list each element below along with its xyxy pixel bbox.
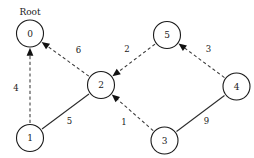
edge-weight-3-2: 1 [121, 117, 126, 127]
arrowhead-icon-2-to-0 [42, 42, 50, 49]
node-label-0: 0 [27, 29, 33, 39]
graph-node-0[interactable]: 0 [17, 20, 44, 47]
edge-2-to-0 [47, 46, 89, 77]
nodes-layer: 012345 [17, 20, 251, 154]
node-label-4: 4 [234, 82, 240, 92]
node-label-1: 1 [27, 133, 33, 143]
graph-node-5[interactable]: 5 [154, 22, 181, 49]
node-label-3: 3 [162, 136, 168, 146]
arrowhead-icon-5-to-2 [112, 69, 120, 77]
graph-svg: 012345 4652139 Root [0, 0, 254, 158]
edge-4-to-5 [183, 47, 224, 77]
edge-weight-1-0: 4 [13, 83, 18, 93]
edges-layer [30, 44, 225, 131]
edge-3-to-4 [177, 96, 225, 132]
edge-weight-4-5: 3 [206, 44, 211, 54]
edge-weight-1-2: 5 [67, 116, 72, 126]
graph-node-2[interactable]: 2 [88, 72, 115, 99]
edge-weight-5-2: 2 [124, 44, 129, 54]
edge-5-to-2 [117, 44, 155, 73]
arrowhead-icon-3-to-2 [112, 94, 120, 102]
graph-diagram-canvas: 012345 4652139 Root [0, 0, 254, 158]
arrowhead-icon-1-to-0 [27, 48, 34, 56]
edge-weight-2-0: 6 [76, 45, 81, 55]
graph-node-4[interactable]: 4 [223, 73, 250, 100]
root-caption-layer: Root [19, 7, 41, 17]
root-caption-label: Root [19, 7, 41, 17]
graph-node-3[interactable]: 3 [151, 127, 178, 154]
graph-node-1[interactable]: 1 [17, 125, 44, 152]
node-label-2: 2 [98, 80, 104, 90]
node-label-5: 5 [164, 30, 170, 40]
arrowhead-icon-4-to-5 [178, 44, 186, 52]
edge-1-to-2 [42, 94, 89, 129]
edge-weight-3-4: 9 [204, 116, 209, 126]
